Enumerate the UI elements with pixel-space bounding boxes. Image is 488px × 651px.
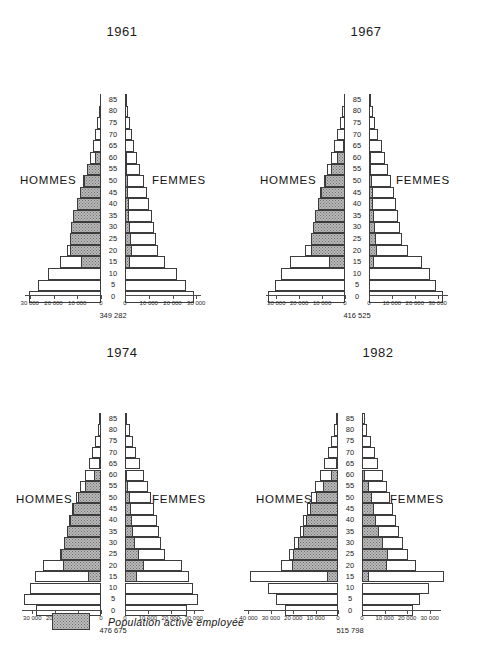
pyramid-panel-1974: 19740510152025303540455055606570758085HO… [0,345,244,645]
bar-men-active [293,549,338,560]
bar-women-active [125,222,130,234]
panel-total: 416 525 [343,311,370,320]
age-axis: 0510152025303540455055606570758085 [101,413,125,616]
x-axis-rule-right [369,295,448,296]
label-femmes: FEMMES [396,174,450,186]
x-tick-label: 20 000 [290,300,308,306]
x-tick [438,295,439,299]
age-tick-label: 80 [345,107,369,115]
x-tick-label: 0 [343,300,346,306]
pyramid-row [244,594,488,605]
age-tick-label: 65 [101,460,125,468]
age-tick-label: 75 [101,119,125,127]
pyramid-row [244,583,488,594]
x-tick-label: 30 000 [23,615,41,621]
age-tick-label: 75 [338,437,362,445]
bar-women-total [125,470,144,481]
age-tick-label: 70 [338,449,362,457]
bar-women-active [369,256,374,268]
x-tick-label: 10 000 [68,300,86,306]
age-tick-label: 75 [101,437,125,445]
label-femmes: FEMMES [390,493,444,505]
bar-men-total [268,583,339,594]
bar-men-active [63,560,101,571]
bar-women-active [125,526,133,537]
bar-women-active [369,152,371,164]
bar-men-active [77,198,101,210]
x-tick [149,295,150,299]
bar-women-total [125,447,136,458]
x-tick [30,295,31,299]
pyramid-row [244,470,488,481]
age-tick-label: 85 [101,96,125,104]
x-axis-rule-right [125,610,204,611]
active-population-swatch [52,613,90,630]
age-tick-label: 80 [338,426,362,434]
pyramid-row [244,458,488,469]
age-tick-label: 50 [101,494,125,502]
bar-women-active [125,470,127,481]
pyramid-row [244,537,488,548]
bar-men-total [281,268,345,280]
age-tick-label: 85 [345,96,369,104]
age-tick-label: 5 [345,281,369,289]
age-tick-label: 40 [101,516,125,524]
age-tick-label: 75 [345,119,369,127]
x-tick-label: 0 [123,300,126,306]
pyramid-row [244,515,488,526]
bar-men-total [328,447,338,458]
population-pyramid-figure: 19610510152025303540455055606570758085HO… [0,0,488,651]
x-tick [101,295,102,299]
bar-men-active [310,503,338,514]
bar-women-total [362,458,378,469]
bar-women-active [362,526,379,537]
bar-women-total [369,117,375,129]
x-axis-rule-right [125,295,201,296]
bar-women-total [125,413,127,424]
bar-women-active [362,515,376,526]
x-tick [276,295,277,299]
x-tick-label: 30 000 [187,300,205,306]
x-tick [316,610,317,614]
x-axis-rule-left [244,610,338,611]
bar-men-active [70,515,101,526]
age-tick-label: 50 [101,177,125,185]
pyramid-row [244,481,488,492]
age-tick-label: 55 [345,165,369,173]
age-tick-label: 25 [101,550,125,558]
age-tick-label: 45 [338,505,362,513]
x-tick-label: 10 000 [313,300,331,306]
bar-women-total [369,140,382,152]
label-femmes: FEMMES [152,174,206,186]
bar-women-active [362,470,365,481]
bar-men-active [337,152,345,164]
bar-women-total [125,291,194,303]
age-tick-label: 40 [345,200,369,208]
age-tick-label: 65 [345,142,369,150]
age-tick-label: 15 [345,258,369,266]
bar-men-active [323,481,338,492]
x-axis-rule-left [266,295,345,296]
age-tick-label: 65 [101,142,125,150]
bar-women-active [369,233,376,245]
bar-men-total [250,571,338,582]
bar-women-active [369,198,373,210]
age-axis: 0510152025303540455055606570758085 [101,94,125,303]
x-tick-label: 10 000 [306,615,324,621]
pyramid-row [244,560,488,571]
bar-women-active [362,481,369,492]
bar-women-total [125,140,134,152]
age-tick-label: 50 [345,177,369,185]
x-tick [299,295,300,299]
age-tick-label: 60 [345,154,369,162]
x-tick-label: 20 000 [398,615,416,621]
age-tick-label: 35 [345,212,369,220]
age-tick-label: 20 [338,562,362,570]
bar-women-total [369,280,436,292]
bar-women-active [125,256,130,268]
bar-women-active [369,245,377,257]
bar-women-total [125,481,148,492]
bar-women-total [362,594,420,605]
bar-men-active [318,198,345,210]
bar-women-active [362,549,388,560]
